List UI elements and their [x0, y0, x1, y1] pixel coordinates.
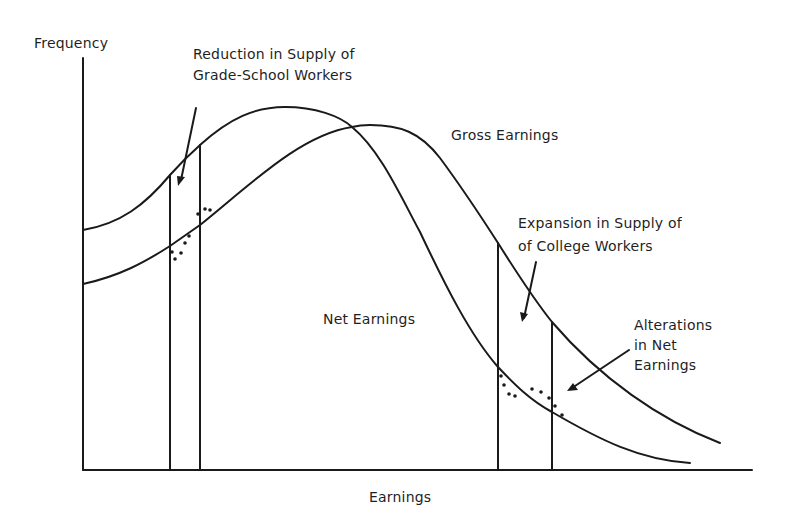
y-axis-label: Frequency	[34, 34, 108, 52]
alterations-arrow	[572, 350, 629, 388]
expansion-arrow	[524, 262, 536, 318]
alterations-annotation-line1: Alterations	[634, 316, 712, 334]
expansion-arrowhead	[520, 312, 528, 322]
alterations-annotation-line2: in Net	[634, 336, 677, 354]
net-earnings-curve	[83, 107, 690, 463]
gross-earnings-label: Gross Earnings	[451, 126, 558, 144]
grade-school-dotted-shift	[170, 207, 212, 261]
reduction-arrow	[181, 108, 196, 180]
reduction-arrowhead	[177, 176, 185, 186]
net-earnings-label: Net Earnings	[323, 310, 415, 328]
alterations-annotation-line3: Earnings	[634, 356, 696, 374]
expansion-annotation-line2: of College Workers	[518, 237, 653, 255]
x-axis-label: Earnings	[369, 488, 431, 506]
reduction-annotation-line2: Grade-School Workers	[193, 66, 352, 84]
diagram-canvas	[0, 0, 790, 526]
gross-earnings-curve	[83, 125, 720, 443]
college-dotted-shift	[499, 374, 564, 417]
expansion-annotation-line1: Expansion in Supply of	[518, 214, 682, 232]
reduction-annotation-line1: Reduction in Supply of	[193, 45, 355, 63]
